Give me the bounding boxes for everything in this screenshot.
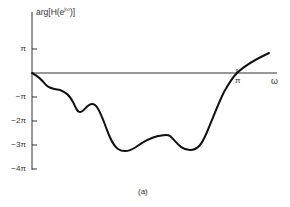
y-axis-title-text: arg[H(e bbox=[36, 7, 64, 17]
y-tick-label-pi: π bbox=[0, 44, 26, 53]
y-axis-title: arg[H(ejω)] bbox=[36, 6, 75, 17]
x-tick-label-pi: π bbox=[235, 76, 241, 85]
y-tick-label-neg-3pi: −3π bbox=[0, 140, 26, 149]
phase-curve bbox=[32, 53, 269, 151]
y-axis-title-end: )] bbox=[70, 7, 75, 17]
y-ticks bbox=[32, 49, 37, 169]
y-tick-label-neg-4pi: −4π bbox=[0, 164, 26, 173]
y-tick-label-neg-pi: −π bbox=[0, 92, 26, 101]
y-tick-label-neg-2pi: −2π bbox=[0, 116, 26, 125]
figure-caption: (a) bbox=[138, 187, 148, 196]
phase-plot bbox=[0, 0, 290, 207]
x-axis-title: ω bbox=[271, 76, 278, 86]
